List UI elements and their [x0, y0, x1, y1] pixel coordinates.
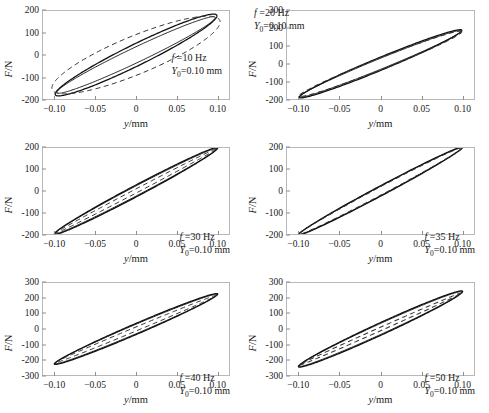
x-tick-label: 0.10 [209, 380, 226, 390]
y-tick-label: -100 [266, 340, 283, 350]
y-tick-mark [42, 147, 46, 148]
y-tick-label: 300 [269, 5, 283, 15]
x-tick-label: 0.05 [169, 104, 186, 114]
curves-layer [287, 283, 474, 375]
y-tick-label: 200 [25, 5, 39, 15]
x-tick-mark [298, 372, 299, 376]
y-tick-label: 0 [278, 324, 283, 334]
y-tick-mark [286, 282, 290, 283]
x-tick-mark [381, 96, 382, 100]
y-tick-mark [42, 235, 46, 236]
curve-experiment-1 [54, 148, 217, 234]
y-tick-mark [42, 32, 46, 33]
x-tick-mark [54, 231, 55, 235]
x-tick-mark [177, 96, 178, 100]
curve-experiment-1 [299, 30, 462, 98]
y-tick-label: 100 [25, 308, 39, 318]
y-tick-mark [286, 344, 290, 345]
x-tick-mark [339, 231, 340, 235]
curves-layer [287, 11, 474, 99]
x-tick-mark [422, 96, 423, 100]
x-tick-mark [218, 96, 219, 100]
x-tick-label: 0.10 [209, 239, 226, 249]
x-tick-label: −0.05 [84, 239, 106, 249]
y-tick-mark [286, 28, 290, 29]
plot-area [286, 282, 475, 376]
x-tick-mark [95, 96, 96, 100]
x-tick-label: 0 [134, 104, 139, 114]
plot-area [42, 147, 230, 235]
panel-annotation: f =10 HzY0=0.10 mm [171, 52, 222, 81]
y-tick-mark [286, 10, 290, 11]
curve-experiment-1 [298, 148, 462, 234]
x-tick-label: −0.10 [287, 104, 309, 114]
y-tick-mark [286, 169, 290, 170]
x-tick-mark [298, 96, 299, 100]
curve-model [299, 148, 462, 234]
y-tick-mark [286, 235, 290, 236]
plot-area [286, 10, 475, 100]
x-tick-label: 0 [378, 239, 383, 249]
y-tick-label: 0 [34, 186, 39, 196]
x-tick-mark [177, 372, 178, 376]
hysteresis-loop-figure: F/Nf =10 HzY0=0.10 mm-200-1000100200−0.1… [0, 0, 489, 413]
y-tick-mark [42, 313, 46, 314]
x-tick-mark [381, 231, 382, 235]
x-tick-label: −0.10 [287, 239, 309, 249]
x-tick-label: 0.05 [413, 104, 430, 114]
x-tick-mark [422, 231, 423, 235]
x-tick-mark [463, 372, 464, 376]
y-tick-label: 200 [269, 23, 283, 33]
panel-4: F/Nf =35 HzY0=0.10 mm-200-1000100200−0.1… [244, 137, 489, 272]
y-tick-mark [42, 191, 46, 192]
y-tick-mark [286, 147, 290, 148]
y-tick-label: -100 [22, 208, 39, 218]
y-tick-mark [42, 297, 46, 298]
x-tick-label: 0.05 [169, 380, 186, 390]
x-tick-label: −0.05 [328, 239, 350, 249]
y-tick-mark [286, 82, 290, 83]
curve-experiment-2 [55, 294, 217, 363]
x-tick-label: −0.05 [328, 380, 350, 390]
y-tick-mark [42, 77, 46, 78]
x-tick-mark [381, 372, 382, 376]
y-tick-mark [42, 360, 46, 361]
x-axis-title: y/mm [42, 118, 230, 129]
y-tick-label: -200 [22, 355, 39, 365]
y-tick-mark [286, 360, 290, 361]
y-tick-mark [286, 64, 290, 65]
curve-experiment-2 [55, 148, 217, 233]
y-tick-label: -100 [266, 208, 283, 218]
x-axis-title: y/mm [286, 394, 475, 405]
x-tick-label: 0 [134, 239, 139, 249]
curves-layer [43, 148, 229, 234]
curve-model [55, 295, 217, 363]
y-tick-label: 300 [269, 277, 283, 287]
y-tick-label: -100 [22, 73, 39, 83]
curve-experiment-2 [299, 148, 462, 234]
y-tick-label: -100 [22, 340, 39, 350]
x-axis-title: y/mm [286, 118, 475, 129]
curves-layer [43, 283, 229, 375]
y-tick-label: -300 [22, 371, 39, 381]
y-tick-mark [42, 169, 46, 170]
panel-3: F/Nf =30 HzY0=0.10 mm-200-1000100200−0.1… [0, 137, 244, 272]
x-tick-label: 0.10 [454, 380, 471, 390]
x-tick-mark [136, 96, 137, 100]
x-tick-mark [339, 372, 340, 376]
y-tick-mark [42, 329, 46, 330]
x-tick-mark [95, 231, 96, 235]
y-tick-mark [286, 46, 290, 47]
x-tick-mark [218, 372, 219, 376]
x-tick-label: 0.05 [413, 239, 430, 249]
y-tick-label: -200 [266, 230, 283, 240]
x-tick-label: 0 [134, 380, 139, 390]
x-tick-mark [463, 96, 464, 100]
x-tick-label: 0.10 [454, 104, 471, 114]
y-tick-label: 100 [25, 164, 39, 174]
x-tick-mark [54, 96, 55, 100]
x-tick-mark [95, 372, 96, 376]
x-tick-label: 0.05 [169, 239, 186, 249]
y-tick-mark [42, 282, 46, 283]
x-tick-mark [136, 372, 137, 376]
